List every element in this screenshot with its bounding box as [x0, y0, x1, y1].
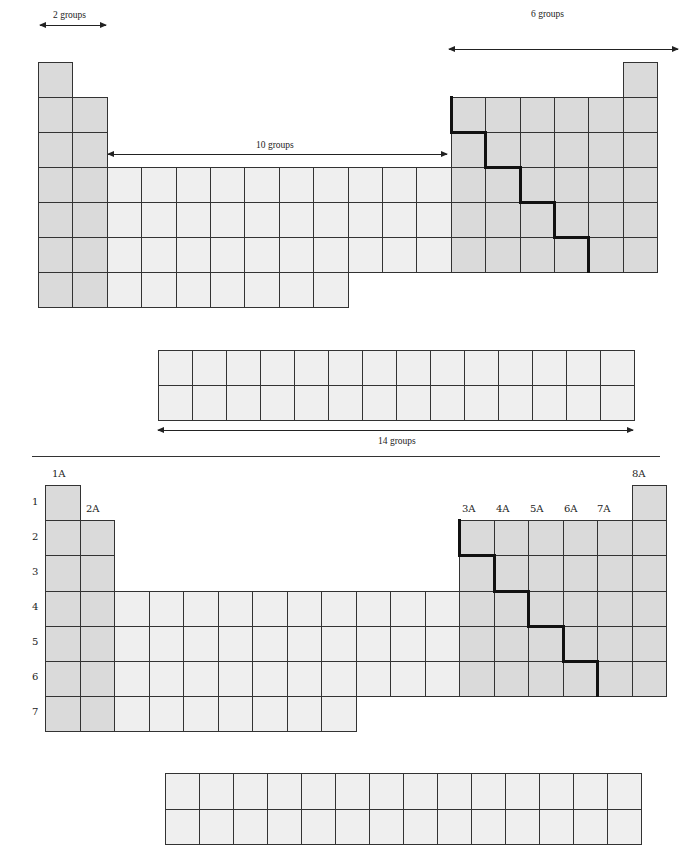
top-table-cell-s — [38, 272, 73, 308]
top-table-cell-d — [107, 272, 142, 308]
bottom-table-cell-p — [494, 626, 530, 662]
top-table-cell-d — [279, 272, 314, 308]
top-table-cell-p — [451, 237, 486, 273]
top-table-cell-d — [141, 272, 176, 308]
bottom-table-cell-d — [287, 696, 323, 732]
bottom-table-cell-d — [390, 626, 426, 662]
top-table-cell-s — [72, 167, 107, 203]
bottom-table-staircase-line — [562, 660, 600, 663]
bottom-table-cell-d — [218, 661, 254, 697]
bottom-table-staircase-line — [493, 590, 531, 593]
top-table-cell-d — [313, 272, 348, 308]
bottom-table-cell-p — [597, 661, 633, 697]
top-fblock-cell-f — [192, 385, 227, 421]
bottom-table-cell-d — [252, 661, 288, 697]
period-label-4: 4 — [32, 601, 38, 612]
bottom-fblock-cell-f — [369, 773, 404, 810]
top-table-cell-p — [554, 202, 589, 238]
bottom-table-cell-d — [149, 661, 185, 697]
period-label-3: 3 — [32, 566, 38, 577]
top-table-cell-p — [588, 237, 623, 273]
top-table-cell-d — [107, 167, 142, 203]
bottom-table-cell-p — [597, 591, 633, 627]
bottom-table-cell-p — [459, 591, 495, 627]
bottom-fblock-cell-f — [403, 773, 438, 810]
bottom-table-cell-d — [218, 591, 254, 627]
top-table-cell-s — [38, 237, 73, 273]
bottom-table-staircase-line — [493, 554, 496, 591]
top-table-cell-d — [348, 202, 383, 238]
top-fblock-cell-f — [430, 385, 465, 421]
top-table-cell-d — [141, 202, 176, 238]
top-table-cell-d — [313, 202, 348, 238]
bottom-table-cell-d — [321, 696, 357, 732]
s-block-arrow — [40, 25, 106, 26]
period-label-2: 2 — [32, 531, 38, 542]
bottom-fblock-cell-f — [369, 809, 404, 846]
bottom-fblock-cell-f — [403, 809, 438, 846]
top-table-cell-p — [623, 62, 658, 98]
top-fblock-cell-f — [192, 350, 227, 386]
bottom-table-staircase-line — [562, 625, 565, 662]
bottom-table-cell-p — [632, 626, 668, 662]
s-block-label: 2 groups — [53, 10, 86, 20]
bottom-table-cell-p — [494, 555, 530, 591]
bottom-table-cell-p — [494, 591, 530, 627]
bottom-table-cell-s — [45, 555, 81, 591]
top-table-cell-d — [141, 167, 176, 203]
bottom-fblock-cell-f — [165, 809, 200, 846]
bottom-table-cell-s — [80, 591, 116, 627]
top-table-cell-p — [485, 167, 520, 203]
top-table-cell-s — [72, 97, 107, 133]
bottom-table-cell-s — [45, 661, 81, 697]
top-table-cell-d — [313, 237, 348, 273]
top-fblock-cell-f — [464, 350, 499, 386]
group-label-2a: 2A — [86, 503, 100, 514]
bottom-fblock-cell-f — [233, 773, 268, 810]
top-table-cell-p — [623, 237, 658, 273]
top-fblock-cell-f — [600, 350, 635, 386]
period-label-6: 6 — [32, 671, 38, 682]
bottom-table-cell-d — [425, 661, 461, 697]
bottom-table-cell-d — [287, 626, 323, 662]
bottom-table-staircase-line — [596, 660, 599, 697]
top-fblock-cell-f — [362, 350, 397, 386]
top-table-cell-d — [279, 237, 314, 273]
bottom-fblock-cell-f — [505, 773, 540, 810]
top-table-cell-s — [38, 132, 73, 168]
bottom-table-cell-p — [563, 661, 599, 697]
top-table-staircase-line — [484, 131, 487, 168]
top-table-cell-d — [382, 167, 417, 203]
bottom-table-cell-s — [45, 485, 81, 521]
bottom-fblock-cell-f — [607, 809, 642, 846]
bottom-table-cell-p — [459, 520, 495, 556]
bottom-fblock-cell-f — [437, 809, 472, 846]
f-block-label: 14 groups — [378, 436, 416, 446]
top-table-staircase-line — [519, 166, 522, 203]
bottom-table-cell-d — [321, 591, 357, 627]
bottom-table-cell-d — [252, 591, 288, 627]
bottom-table-cell-d — [252, 626, 288, 662]
top-table-cell-d — [382, 202, 417, 238]
bottom-table-cell-d — [287, 661, 323, 697]
bottom-table-cell-d — [321, 626, 357, 662]
top-table-staircase-line — [553, 201, 556, 238]
top-table-cell-p — [520, 97, 555, 133]
bottom-table-cell-d — [114, 661, 150, 697]
top-table-cell-p — [623, 132, 658, 168]
bottom-table-cell-p — [494, 661, 530, 697]
bottom-table-cell-s — [45, 591, 81, 627]
period-label-1: 1 — [32, 496, 38, 507]
top-table-cell-s — [38, 202, 73, 238]
bottom-fblock-cell-f — [471, 773, 506, 810]
d-block-label: 10 groups — [256, 140, 294, 150]
top-fblock-cell-f — [498, 350, 533, 386]
top-fblock-cell-f — [532, 385, 567, 421]
top-table-staircase-line — [553, 236, 590, 239]
bottom-table-cell-s — [45, 696, 81, 732]
top-fblock-cell-f — [260, 350, 295, 386]
bottom-table-cell-p — [528, 661, 564, 697]
group-label-5a: 5A — [530, 503, 544, 514]
top-fblock-cell-f — [464, 385, 499, 421]
top-table-cell-p — [588, 132, 623, 168]
